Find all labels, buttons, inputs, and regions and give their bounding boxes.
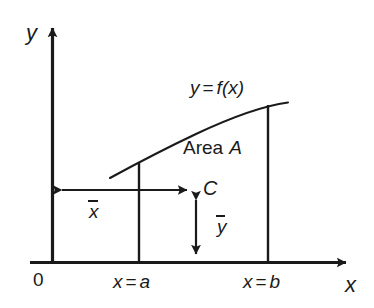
tick-a-equals: = <box>123 271 140 292</box>
curve-equation-fx: f(x) <box>217 77 244 98</box>
y-bar-glyph: y <box>217 215 227 236</box>
origin-label: 0 <box>33 270 44 289</box>
tick-b-equals: = <box>253 271 270 292</box>
tick-label-a: x=a <box>113 272 150 291</box>
math-figure: y x 0 y=f(x) AreaA C x y x=a x=b <box>0 0 374 308</box>
area-word: Area <box>183 137 223 158</box>
y-axis-label: y <box>26 22 37 44</box>
x-bar-glyph: x <box>89 200 99 221</box>
curve-equation-y: y <box>190 77 200 98</box>
x-axis-label: x <box>345 274 356 296</box>
tick-b-x: x <box>243 271 253 292</box>
x-bar-label: x <box>89 200 99 221</box>
centroid-label: C <box>203 178 217 198</box>
curve-equation-label: y=f(x) <box>190 78 244 97</box>
area-label: AreaA <box>183 138 242 157</box>
curve-equation-equals: = <box>200 77 217 98</box>
area-symbol: A <box>223 137 242 158</box>
y-bar-label: y <box>217 215 227 236</box>
tick-a-x: x <box>113 271 123 292</box>
tick-b-value: b <box>270 271 281 292</box>
tick-label-b: x=b <box>243 272 280 291</box>
tick-a-value: a <box>140 271 151 292</box>
